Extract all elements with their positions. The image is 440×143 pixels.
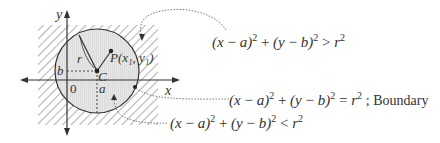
point-p-label: P(x₁, y₁) bbox=[110, 50, 154, 66]
origin-label: 0 bbox=[70, 81, 77, 97]
center-label: C bbox=[98, 69, 107, 85]
eq-boundary: (x − a)2 + (y − b)2 = r2 ; Boundary bbox=[229, 90, 428, 109]
eq-outside: (x − a)2 + (y − b)2 > r2 bbox=[212, 32, 345, 51]
boundary-note: ; Boundary bbox=[366, 93, 429, 108]
x-axis-label: x bbox=[165, 83, 171, 99]
y-axis-label: y bbox=[56, 7, 62, 23]
eq-inside: (x − a)2 + (y − b)2 < r2 bbox=[170, 113, 303, 132]
b-label: b bbox=[57, 63, 64, 79]
radius-label: r bbox=[77, 51, 82, 67]
